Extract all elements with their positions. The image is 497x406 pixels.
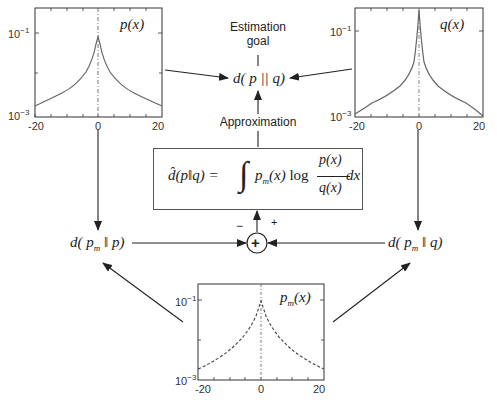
sum-plus-symbol: + xyxy=(251,234,260,251)
plot-pm-xtick-right: 20 xyxy=(313,383,325,395)
plot-pm-xtick-mid: 0 xyxy=(258,383,264,395)
plot-q-xtick-left: -20 xyxy=(349,120,365,132)
target-divergence: d( p || q) xyxy=(233,70,285,87)
arrow-pm-to-right-node xyxy=(333,263,410,322)
arrow-p-to-target xyxy=(165,70,228,78)
formula-denominator: q(x) xyxy=(319,180,342,196)
plot-p-title: p(x) xyxy=(120,16,144,33)
plot-q-ytick-top: 10−1 xyxy=(330,24,351,38)
minus-sign: − xyxy=(236,219,243,233)
plus-sign: + xyxy=(271,216,277,228)
plot-pm-ytick-bottom: 10−3 xyxy=(175,373,196,387)
estimator-formula-box: d̂(p‖q) = ∫ pm(x) log p(x) q(x) dx xyxy=(153,148,363,210)
integral-sign: ∫ xyxy=(239,155,248,193)
estimation-goal-label: Estimation goal xyxy=(218,20,298,48)
formula-lhs: d̂(p‖q) = xyxy=(168,167,219,184)
arrow-pm-to-left-node xyxy=(103,263,183,322)
plot-p-ytick-bottom: 10−3 xyxy=(8,108,29,122)
plot-p-ytick-top: 10−1 xyxy=(8,26,29,40)
formula-numerator: p(x) xyxy=(319,152,342,168)
plot-p-xtick-left: -20 xyxy=(28,120,44,132)
formula-integrand: pm(x) log xyxy=(255,167,309,186)
plot-pm-title: pm(x) xyxy=(280,289,311,308)
divergence-pm-q: d( pm ‖ q) xyxy=(388,234,442,253)
plot-q-title: q(x) xyxy=(440,16,464,33)
plot-p-xtick-right: 20 xyxy=(152,120,164,132)
plot-q-xtick-right: 20 xyxy=(473,120,485,132)
divergence-pm-p: d( pm ‖ p) xyxy=(70,234,124,253)
plot-pm-xtick-left: -20 xyxy=(195,383,211,395)
arrow-q-to-target xyxy=(290,69,352,78)
plot-pm-ytick-top: 10−1 xyxy=(175,294,196,308)
plot-p-xtick-mid: 0 xyxy=(95,120,101,132)
plot-q-xtick-mid: 0 xyxy=(416,120,422,132)
formula-dx: dx xyxy=(346,167,360,184)
approximation-label: Approximation xyxy=(208,115,308,129)
